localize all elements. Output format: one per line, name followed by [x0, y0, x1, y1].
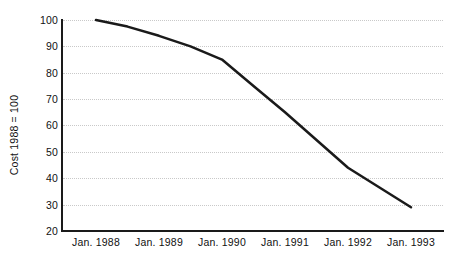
x-tick-label: Jan. 1993	[387, 236, 435, 248]
series-layer	[0, 0, 457, 267]
x-tick-label: Jan. 1988	[72, 236, 120, 248]
y-tick-label: 80	[4, 68, 58, 79]
y-tick-label: 90	[4, 41, 58, 52]
chart-figure: 100 90 80 70 60 50 40 30 20 Cost 1988 = …	[0, 0, 457, 267]
x-tick-label: Jan. 1989	[135, 236, 183, 248]
gridline-90	[63, 46, 443, 48]
gridline-100	[63, 20, 443, 22]
gridline-40	[63, 178, 443, 180]
gridline-50	[63, 152, 443, 154]
x-tick-label: Jan. 1991	[261, 236, 309, 248]
y-tick-label: 100	[4, 15, 58, 26]
gridline-30	[63, 205, 443, 207]
x-axis-tick-labels: Jan. 1988 Jan. 1989 Jan. 1990 Jan. 1991 …	[0, 236, 457, 252]
x-tick-label: Jan. 1990	[198, 236, 246, 248]
y-axis-line	[61, 19, 63, 232]
x-tick-label: Jan. 1992	[324, 236, 372, 248]
y-tick-label: 30	[4, 200, 58, 211]
gridline-80	[63, 73, 443, 75]
y-axis-title: Cost 1988 = 100	[8, 95, 20, 175]
x-axis-line	[61, 230, 444, 232]
gridline-70	[63, 99, 443, 101]
gridline-60	[63, 125, 443, 127]
